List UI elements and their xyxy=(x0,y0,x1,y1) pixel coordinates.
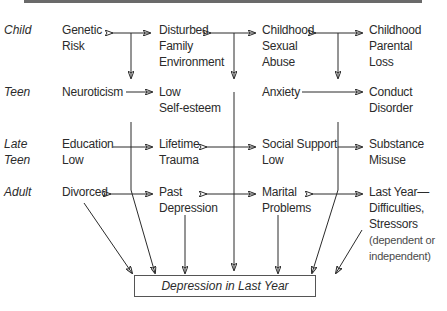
edge-rightvertical-outcome xyxy=(312,190,338,273)
edge-divorced-outcome xyxy=(84,203,132,273)
edges-layer xyxy=(0,0,447,311)
edge-lastyear-outcome xyxy=(336,230,362,273)
edge-leftvertical-outcome xyxy=(131,190,155,273)
